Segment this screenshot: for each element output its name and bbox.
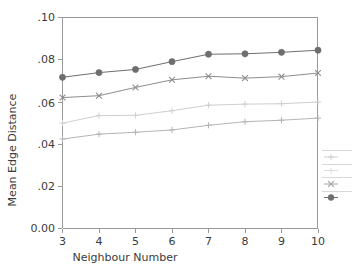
x-tick-label-0: 3 — [59, 235, 66, 248]
data-point — [242, 51, 248, 57]
y-tick-label-2: .04 — [38, 138, 56, 151]
data-point — [315, 47, 321, 53]
x-tick-label-6: 9 — [278, 235, 285, 248]
y-tick-label-3: .06 — [38, 97, 56, 110]
x-tick-label-3: 6 — [169, 235, 176, 248]
y-axis-title: Mean Edge Distance — [6, 93, 19, 206]
data-point — [132, 66, 138, 72]
data-point — [169, 59, 175, 65]
legend-marker — [328, 195, 334, 201]
data-point — [205, 51, 211, 57]
chart-figure: 0.00 .02 .04 .06 .08 .10 3 4 5 6 7 8 9 1… — [0, 0, 352, 270]
x-tick-label-2: 5 — [132, 235, 139, 248]
x-axis-title: Neighbour Number — [73, 251, 178, 264]
data-point — [59, 74, 65, 80]
x-tick-label-5: 8 — [242, 235, 249, 248]
x-tick-label-7: 10 — [311, 235, 325, 248]
y-tick-label-4: .08 — [38, 53, 56, 66]
y-tick-label-5: .10 — [38, 11, 56, 24]
data-point — [278, 49, 284, 55]
data-point — [96, 70, 102, 76]
x-tick-label-1: 4 — [96, 235, 103, 248]
y-tick-label-0: 0.00 — [31, 222, 56, 235]
x-tick-label-4: 7 — [205, 235, 212, 248]
y-tick-label-1: .02 — [38, 180, 56, 193]
line-chart: 0.00 .02 .04 .06 .08 .10 3 4 5 6 7 8 9 1… — [0, 0, 352, 270]
